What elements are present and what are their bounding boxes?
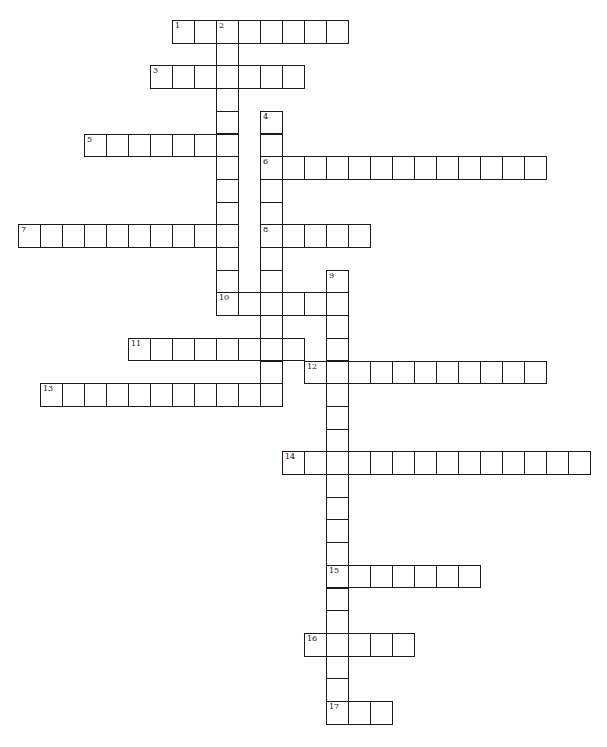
crossword-cell[interactable] <box>414 156 437 180</box>
crossword-cell[interactable] <box>370 701 393 725</box>
crossword-cell[interactable] <box>370 633 393 657</box>
crossword-cell[interactable] <box>348 224 371 248</box>
crossword-cell[interactable] <box>216 88 239 112</box>
crossword-cell[interactable] <box>370 361 393 385</box>
crossword-cell[interactable] <box>282 65 305 89</box>
crossword-cell[interactable] <box>436 156 459 180</box>
crossword-cell[interactable]: 11 <box>128 338 151 362</box>
crossword-cell[interactable]: 8 <box>260 224 283 248</box>
crossword-cell[interactable] <box>348 156 371 180</box>
crossword-cell[interactable] <box>260 270 283 294</box>
crossword-cell[interactable] <box>326 588 349 612</box>
crossword-cell[interactable] <box>326 406 349 430</box>
crossword-cell[interactable]: 16 <box>304 633 327 657</box>
crossword-cell[interactable] <box>348 451 371 475</box>
crossword-cell[interactable] <box>260 247 283 271</box>
crossword-cell[interactable] <box>326 156 349 180</box>
crossword-cell[interactable] <box>326 361 349 385</box>
crossword-cell[interactable] <box>150 134 173 158</box>
crossword-cell[interactable] <box>172 383 195 407</box>
crossword-cell[interactable] <box>326 656 349 680</box>
crossword-cell[interactable] <box>502 451 525 475</box>
crossword-cell[interactable] <box>392 451 415 475</box>
crossword-cell[interactable] <box>260 292 283 316</box>
crossword-cell[interactable] <box>326 20 349 44</box>
crossword-cell[interactable] <box>106 224 129 248</box>
crossword-cell[interactable] <box>348 701 371 725</box>
crossword-cell[interactable] <box>172 224 195 248</box>
crossword-cell[interactable] <box>326 610 349 634</box>
crossword-cell[interactable] <box>238 20 261 44</box>
crossword-cell[interactable] <box>216 270 239 294</box>
crossword-cell[interactable]: 13 <box>40 383 63 407</box>
crossword-cell[interactable]: 6 <box>260 156 283 180</box>
crossword-cell[interactable] <box>150 383 173 407</box>
crossword-cell[interactable] <box>414 361 437 385</box>
crossword-cell[interactable] <box>194 338 217 362</box>
crossword-cell[interactable] <box>260 383 283 407</box>
crossword-cell[interactable] <box>216 65 239 89</box>
crossword-cell[interactable] <box>370 565 393 589</box>
crossword-cell[interactable] <box>62 224 85 248</box>
crossword-cell[interactable] <box>216 247 239 271</box>
crossword-cell[interactable] <box>260 315 283 339</box>
crossword-cell[interactable]: 10 <box>216 292 239 316</box>
crossword-cell[interactable] <box>326 224 349 248</box>
crossword-cell[interactable]: 5 <box>84 134 107 158</box>
crossword-cell[interactable] <box>260 65 283 89</box>
crossword-cell[interactable] <box>216 224 239 248</box>
crossword-cell[interactable]: 4 <box>260 111 283 135</box>
crossword-cell[interactable] <box>524 156 547 180</box>
crossword-cell[interactable]: 15 <box>326 565 349 589</box>
crossword-cell[interactable] <box>304 20 327 44</box>
crossword-cell[interactable] <box>194 65 217 89</box>
crossword-cell[interactable] <box>150 224 173 248</box>
crossword-cell[interactable] <box>216 156 239 180</box>
crossword-cell[interactable] <box>326 429 349 453</box>
crossword-cell[interactable] <box>194 134 217 158</box>
crossword-cell[interactable] <box>216 202 239 226</box>
crossword-cell[interactable] <box>282 292 305 316</box>
crossword-cell[interactable]: 9 <box>326 270 349 294</box>
crossword-cell[interactable] <box>128 134 151 158</box>
crossword-cell[interactable] <box>458 156 481 180</box>
crossword-cell[interactable] <box>260 134 283 158</box>
crossword-cell[interactable] <box>414 565 437 589</box>
crossword-cell[interactable] <box>260 179 283 203</box>
crossword-cell[interactable] <box>260 338 283 362</box>
crossword-cell[interactable] <box>106 134 129 158</box>
crossword-cell[interactable] <box>172 65 195 89</box>
crossword-cell[interactable] <box>480 156 503 180</box>
crossword-cell[interactable] <box>194 383 217 407</box>
crossword-cell[interactable] <box>84 383 107 407</box>
crossword-cell[interactable] <box>326 451 349 475</box>
crossword-cell[interactable] <box>216 111 239 135</box>
crossword-cell[interactable] <box>106 383 129 407</box>
crossword-cell[interactable]: 7 <box>18 224 41 248</box>
crossword-cell[interactable] <box>458 565 481 589</box>
crossword-cell[interactable] <box>546 451 569 475</box>
crossword-cell[interactable] <box>40 224 63 248</box>
crossword-cell[interactable] <box>326 519 349 543</box>
crossword-cell[interactable] <box>348 633 371 657</box>
crossword-cell[interactable] <box>194 20 217 44</box>
crossword-cell[interactable] <box>238 383 261 407</box>
crossword-cell[interactable] <box>392 156 415 180</box>
crossword-cell[interactable] <box>194 224 217 248</box>
crossword-cell[interactable] <box>172 338 195 362</box>
crossword-cell[interactable] <box>326 474 349 498</box>
crossword-cell[interactable] <box>502 361 525 385</box>
crossword-cell[interactable] <box>304 292 327 316</box>
crossword-cell[interactable] <box>260 20 283 44</box>
crossword-cell[interactable] <box>326 383 349 407</box>
crossword-cell[interactable] <box>502 156 525 180</box>
crossword-cell[interactable] <box>326 338 349 362</box>
crossword-cell[interactable] <box>326 678 349 702</box>
crossword-cell[interactable] <box>282 156 305 180</box>
crossword-cell[interactable] <box>348 565 371 589</box>
crossword-cell[interactable]: 12 <box>304 361 327 385</box>
crossword-cell[interactable] <box>458 451 481 475</box>
crossword-cell[interactable] <box>260 202 283 226</box>
crossword-cell[interactable] <box>370 156 393 180</box>
crossword-cell[interactable] <box>326 315 349 339</box>
